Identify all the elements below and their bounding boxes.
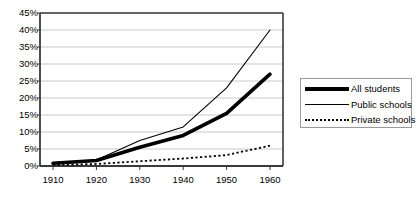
legend-swatch-thick-solid-icon [305,84,349,94]
x-tick-label: 1920 [76,175,116,185]
legend-label-all-students: All students [351,84,400,94]
legend-item-all-students: All students [301,81,413,97]
x-tick-label: 1950 [207,175,247,185]
chart-legend: All students Public schools Private scho… [300,78,412,128]
x-tick-label: 1910 [33,175,73,185]
x-tick-label: 1940 [163,175,203,185]
legend-item-public-schools: Public schools [301,97,413,113]
legend-swatch-thin-solid-icon [305,100,349,110]
x-tick-label: 1930 [120,175,160,185]
legend-swatch-dotted-icon [305,115,349,125]
chart-container: 0%5%10%15%20%25%30%35%40%45% 19101920193… [0,0,419,206]
x-tick-label: 1960 [250,175,290,185]
legend-label-private-schools: Private schools [351,115,415,125]
legend-item-private-schools: Private schools [301,112,413,128]
legend-label-public-schools: Public schools [351,100,412,110]
